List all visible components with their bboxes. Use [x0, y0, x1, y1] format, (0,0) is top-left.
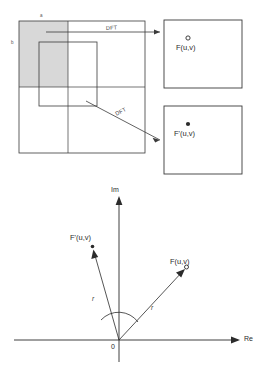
- panel-edge-label-a: a: [40, 14, 43, 19]
- dft-label-top: DFT: [106, 25, 118, 31]
- imaginary-axis-arrowhead: [116, 196, 123, 205]
- origin-label: 0: [111, 343, 115, 350]
- dft-arrow-top-head: [154, 30, 160, 35]
- frequency-box-top-frame: [164, 20, 242, 88]
- hollow-circle-icon: [186, 36, 190, 40]
- frequency-box-bottom: [164, 106, 242, 174]
- panel-edge-label-b: b: [11, 41, 14, 46]
- real-axis-arrowhead: [231, 337, 240, 344]
- vector-f-prime-label: F'(u,v): [70, 234, 91, 242]
- frequency-box-bottom-frame: [164, 106, 242, 174]
- vector-f-prime-magnitude-label: r: [92, 296, 94, 303]
- complex-plane-diagram: [14, 196, 240, 362]
- vector-f-prime-endpoint-dot: [91, 245, 95, 249]
- vector-f-magnitude-label: r: [151, 305, 153, 312]
- vector-f-arrowhead: [176, 269, 185, 277]
- frequency-box-top-label: F(u,v): [176, 44, 196, 52]
- imaginary-axis-label: Im: [111, 186, 119, 193]
- figure-canvas: [0, 0, 266, 365]
- shaded-quadrant: [19, 21, 68, 87]
- frequency-box-top: [164, 20, 242, 88]
- frequency-box-bottom-label: F'(u,v): [174, 130, 195, 138]
- filled-dot-icon: [186, 122, 190, 126]
- real-axis-label: Re: [244, 335, 253, 342]
- dft-arrow-bottom-head: [153, 138, 160, 143]
- vector-f-prime-line: [94, 252, 119, 340]
- spatial-domain-panel: [19, 21, 160, 153]
- vector-f-prime-arrowhead: [91, 250, 98, 260]
- vector-f-label: F(u,v): [170, 258, 190, 266]
- angle-arc: [101, 312, 138, 322]
